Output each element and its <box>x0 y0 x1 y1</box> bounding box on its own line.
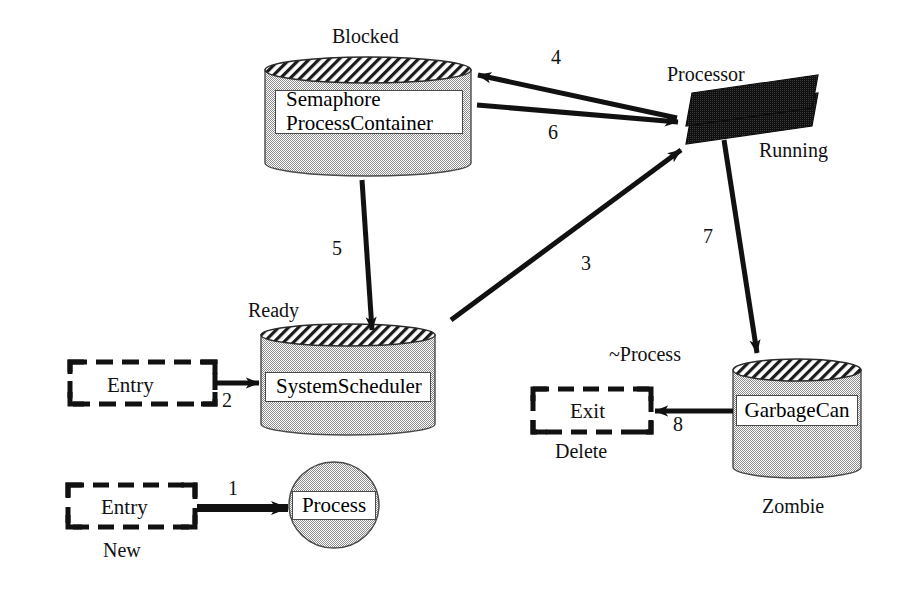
node-entry-new-label[interactable]: Entry <box>101 496 148 520</box>
node-entry-ready-label[interactable]: Entry <box>107 374 154 398</box>
edge-label-3: 3 <box>581 253 591 273</box>
operation-label-destructor: ~Process <box>609 344 681 364</box>
edge-label-4: 4 <box>551 47 561 67</box>
edge-label-6: 6 <box>548 122 558 142</box>
node-zombie-label: GarbageCan <box>745 399 850 423</box>
state-label-blocked: Blocked <box>332 26 399 46</box>
node-blocked-line1: Semaphore <box>286 88 462 112</box>
edge-3-line <box>451 150 681 320</box>
node-new-label: Process <box>302 494 366 518</box>
edge-label-1: 1 <box>228 478 238 498</box>
edge-7-line <box>724 140 757 353</box>
node-ready-label: SystemScheduler <box>276 375 430 399</box>
node-exit-label[interactable]: Exit <box>570 400 605 424</box>
node-blocked-line2: ProcessContainer <box>286 112 462 136</box>
state-label-ready: Ready <box>248 300 299 320</box>
diagram-canvas: Blocked Ready Processor Running Zombie N… <box>0 0 909 593</box>
state-label-zombie: Zombie <box>762 496 824 516</box>
node-blocked-textbox[interactable]: Semaphore ProcessContainer <box>275 90 463 134</box>
node-new-textbox[interactable]: Process <box>292 491 376 520</box>
edge-label-7: 7 <box>703 226 713 246</box>
node-zombie-textbox[interactable]: GarbageCan <box>736 395 858 426</box>
state-label-running: Running <box>759 140 828 160</box>
state-label-processor: Processor <box>667 64 745 84</box>
node-ready-textbox[interactable]: SystemScheduler <box>265 372 431 402</box>
edge-label-2: 2 <box>222 390 232 410</box>
edge-label-8: 8 <box>673 414 683 434</box>
node-running-shape[interactable] <box>686 75 818 144</box>
state-label-delete: Delete <box>555 441 607 461</box>
edge-5-line <box>362 180 372 330</box>
state-label-new: New <box>103 540 141 560</box>
edge-label-5: 5 <box>332 238 342 258</box>
